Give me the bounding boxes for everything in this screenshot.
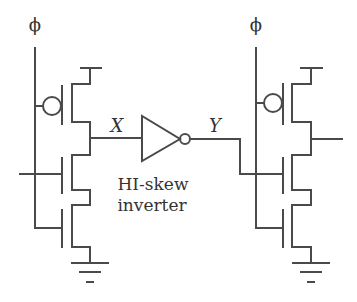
inverter-triangle-icon [142,116,180,161]
node-y-label: Y [209,115,223,136]
node-x-label: X [109,115,125,136]
left-ground-icon [72,263,108,282]
inverter-label-line1: HI-skew [118,174,189,194]
left-stage: ϕ X [20,14,142,282]
inverter-label-line2: inverter [117,195,187,215]
right-clock-label: ϕ [250,14,262,35]
hi-skew-inverter: HI-skew inverter [117,116,190,215]
left-clock-wire [35,48,62,228]
right-ground-icon [293,263,329,282]
right-stage: ϕ Y [190,14,342,282]
node-y-wire [190,139,283,174]
right-clock-wire [256,48,283,228]
left-pmos-channel [72,68,90,138]
domino-circuit-diagram: ϕ X HI-skew inverter ϕ [0,0,357,302]
right-pmos-bubble-icon [264,94,282,112]
left-pmos-bubble-icon [43,97,61,115]
left-nmos-channels [72,138,90,263]
right-channels [292,68,311,263]
left-clock-label: ϕ [29,14,41,35]
